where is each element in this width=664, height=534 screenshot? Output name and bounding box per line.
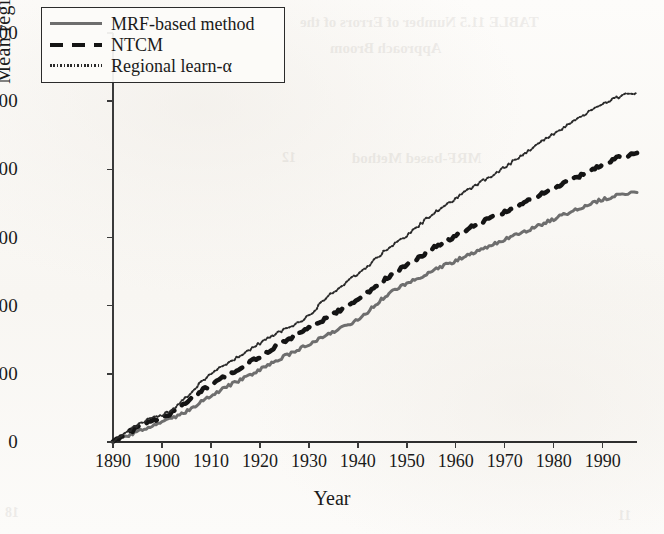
- x-tick-mark: [553, 442, 554, 448]
- x-tick-mark: [308, 442, 309, 448]
- legend-label-mrf: MRF-based method: [111, 15, 255, 33]
- x-tick-mark: [504, 442, 505, 448]
- x-tick-mark: [406, 442, 407, 448]
- x-tick-label: 1970: [487, 451, 523, 472]
- plot-area: [113, 33, 637, 442]
- legend-label-regional: Regional learn-α: [111, 57, 232, 75]
- legend-entry-regional: Regional learn-α: [50, 55, 276, 76]
- x-tick-label: 1940: [340, 451, 376, 472]
- legend-label-ntcm: NTCM: [111, 36, 163, 54]
- x-tick-mark: [259, 442, 260, 448]
- series-line-solid: [113, 192, 637, 441]
- x-tick-label: 1990: [585, 451, 621, 472]
- legend-swatch-solid-icon: [50, 17, 102, 31]
- legend-entry-mrf: MRF-based method: [50, 13, 276, 34]
- y-tick-label: 800: [0, 158, 18, 180]
- x-tick-mark: [161, 442, 162, 448]
- x-tick-label: 1890: [95, 451, 131, 472]
- series-line-dashed: [113, 153, 637, 442]
- x-tick-label: 1910: [193, 451, 229, 472]
- legend-swatch-dotted-icon: [50, 59, 102, 73]
- x-axis-title: Year: [0, 487, 664, 510]
- y-tick-mark: [107, 373, 113, 374]
- x-tick-mark: [455, 442, 456, 448]
- y-tick-mark: [107, 305, 113, 306]
- x-tick-mark: [357, 442, 358, 448]
- showthrough-text: 11: [618, 508, 631, 524]
- y-axis-title: Mean regional loss: [0, 0, 15, 135]
- series-layer: [113, 33, 637, 442]
- y-tick-label: 200: [0, 363, 18, 385]
- y-tick-mark: [107, 169, 113, 170]
- x-tick-label: 1930: [291, 451, 327, 472]
- y-tick-label: 0: [8, 431, 18, 453]
- x-tick-label: 1920: [242, 451, 278, 472]
- legend-swatch-dashed-icon: [50, 38, 102, 52]
- x-tick-mark: [210, 442, 211, 448]
- series-line-dotted: [113, 92, 637, 442]
- y-tick-label: 600: [0, 227, 18, 249]
- chart-legend: MRF-based method NTCM Regional learn-α: [41, 7, 285, 83]
- y-tick-label: 400: [0, 295, 18, 317]
- x-tick-label: 1980: [536, 451, 572, 472]
- legend-entry-ntcm: NTCM: [50, 34, 276, 55]
- y-tick-mark: [107, 237, 113, 238]
- x-tick-label: 1960: [438, 451, 474, 472]
- x-tick-mark: [602, 442, 603, 448]
- y-tick-mark: [107, 100, 113, 101]
- x-tick-label: 1950: [389, 451, 425, 472]
- chart-figure: TABLE 11.5 Number of Errors of theApproa…: [0, 0, 664, 534]
- x-tick-label: 1900: [144, 451, 180, 472]
- showthrough-text: TABLE 11.5 Number of Errors of the: [300, 14, 539, 31]
- x-tick-mark: [112, 442, 113, 448]
